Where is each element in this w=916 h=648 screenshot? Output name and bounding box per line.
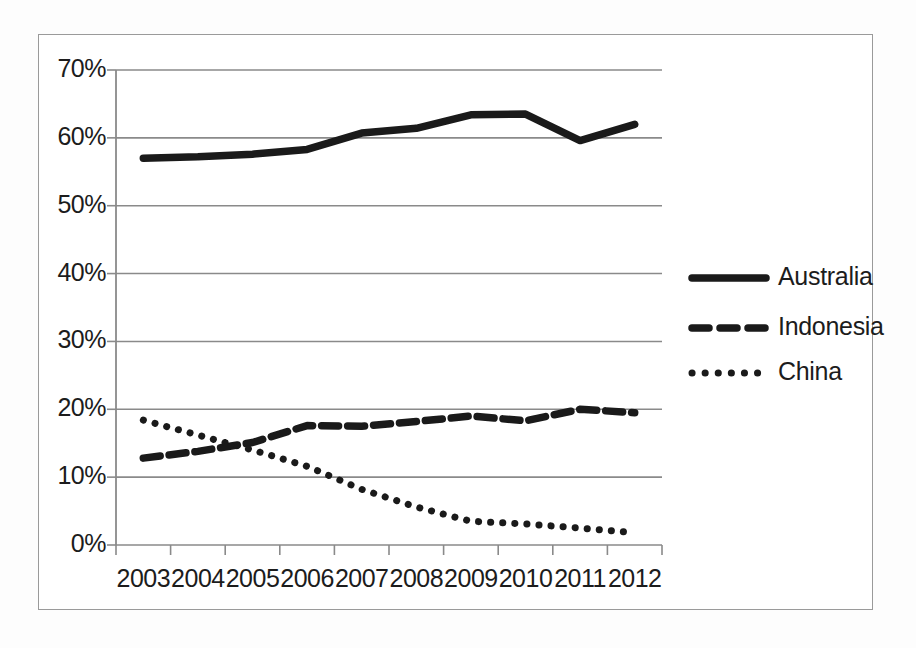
y-axis-tick-label: 0%	[40, 529, 106, 558]
y-axis-tick-label: 20%	[40, 393, 106, 422]
legend-label-australia: Australia	[778, 262, 873, 291]
x-tick-marks	[116, 545, 662, 555]
x-axis-tick-label: 2012	[600, 564, 670, 593]
series-line-indonesia	[143, 409, 634, 458]
y-tick-marks	[107, 70, 116, 545]
y-axis-tick-label: 50%	[40, 190, 106, 219]
y-axis-tick-label: 70%	[40, 54, 106, 83]
series-layer	[143, 114, 634, 533]
legend-label-china: China	[778, 357, 842, 386]
y-axis-tick-label: 60%	[40, 122, 106, 151]
legend-label-indonesia: Indonesia	[778, 312, 884, 341]
legend-line-samples	[692, 278, 766, 373]
chart-page: 70%60%50%40%30%20%10%0% 2003200420052006…	[0, 0, 916, 648]
y-axis-tick-label: 30%	[40, 325, 106, 354]
series-line-australia	[143, 114, 634, 158]
y-axis-tick-label: 10%	[40, 461, 106, 490]
y-axis-tick-label: 40%	[40, 258, 106, 287]
